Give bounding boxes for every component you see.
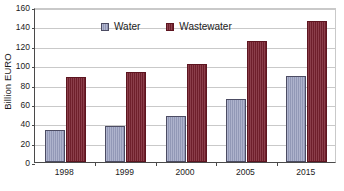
legend-swatch-wastewater-icon — [166, 23, 174, 31]
y-axis-tick-label: 140 — [16, 23, 30, 32]
y-axis-tick-labels: 020406080100120140160 — [12, 0, 32, 171]
bar-water-1999 — [105, 126, 125, 162]
bar-water-2000 — [166, 116, 186, 163]
legend-entry-wastewater[interactable]: Wastewater — [166, 21, 231, 32]
bar-wastewater-2000 — [187, 64, 207, 162]
x-axis-tick-label: 1998 — [55, 168, 74, 177]
y-axis-tick-label: 160 — [16, 4, 30, 13]
chart-legend: WaterWastewater — [101, 21, 232, 32]
bar-wastewater-2005 — [247, 41, 267, 162]
y-axis-tick-label: 100 — [16, 62, 30, 71]
y-axis-tick-label: 40 — [21, 120, 30, 129]
bar-group — [45, 9, 86, 162]
y-axis-title-text: Billion EURO — [2, 53, 13, 110]
y-axis-tick-label: 120 — [16, 43, 30, 52]
x-axis-tick-label: 1999 — [115, 168, 134, 177]
legend-entry-water[interactable]: Water — [101, 21, 140, 32]
x-axis-tick-mark — [95, 162, 96, 166]
bar-wastewater-1999 — [126, 72, 146, 162]
bar-water-2015 — [286, 76, 306, 162]
legend-label: Water — [114, 21, 140, 32]
x-axis-tick-mark — [156, 162, 157, 166]
y-axis-tick-mark — [32, 164, 35, 165]
bar-water-1998 — [45, 130, 65, 162]
legend-swatch-water-icon — [101, 23, 109, 31]
y-axis-tick-label: 60 — [21, 101, 30, 110]
x-axis-tick-label: 2005 — [236, 168, 255, 177]
legend-label: Wastewater — [179, 21, 231, 32]
x-axis-tick-mark — [277, 162, 278, 166]
x-axis-tick-label: 2015 — [296, 168, 315, 177]
bar-group — [226, 9, 267, 162]
x-axis-tick-mark — [216, 162, 217, 166]
bar-wastewater-1998 — [66, 77, 86, 162]
bar-water-2005 — [226, 99, 246, 162]
bar-wastewater-2015 — [307, 21, 327, 162]
x-axis-tick-label: 2000 — [176, 168, 195, 177]
bar-chart: Billion EURO 020406080100120140160 Water… — [0, 0, 344, 191]
y-axis-tick-label: 0 — [25, 159, 30, 168]
plot-area: WaterWastewater — [34, 8, 336, 163]
y-axis-tick-label: 80 — [21, 81, 30, 90]
y-axis-tick-label: 20 — [21, 139, 30, 148]
x-axis-tick-labels: 19981999200020052015 — [34, 168, 336, 186]
bar-group — [286, 9, 327, 162]
